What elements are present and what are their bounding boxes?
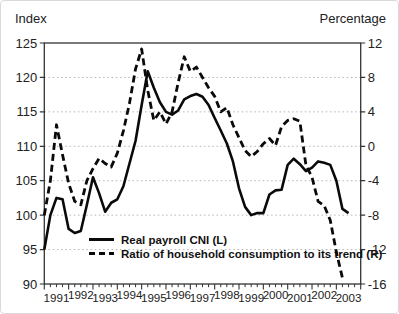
right-axis-title: Percentage	[320, 11, 387, 26]
series-line-real-payroll	[44, 71, 348, 249]
right-axis-tick-label: -16	[368, 277, 387, 292]
x-axis-year-label: 1995	[141, 291, 167, 304]
right-axis-tick-label: 12	[368, 36, 382, 51]
legend-label: Ratio of household consumption to its tr…	[121, 248, 382, 260]
chart-container: Index Percentage 12512011511010510095901…	[0, 0, 399, 314]
x-axis-year-label: 1996	[165, 288, 191, 301]
solid-line-sample	[89, 238, 114, 241]
left-axis-tick-label: 115	[17, 104, 38, 119]
x-axis-year-label: 1994	[117, 288, 143, 301]
x-axis-year-label: 2001	[287, 291, 313, 304]
legend-label: Real payroll CNI (L)	[121, 234, 227, 246]
x-axis-year-label: 1991	[44, 291, 70, 304]
x-axis-year-label: 2002	[311, 288, 337, 301]
dashed-line-sample	[89, 252, 114, 255]
x-axis-year-label: 1998	[214, 288, 240, 301]
x-axis-year-label: 1993	[92, 291, 118, 304]
left-axis-tick-label: 120	[16, 70, 38, 85]
left-axis-tick-label: 125	[16, 36, 38, 51]
x-axis-year-label: 1997	[190, 291, 216, 304]
x-axis-year-label: 2003	[336, 291, 362, 304]
x-axis-year-label: 1999	[238, 291, 264, 304]
line-chart-plot: 125120115110105100959012840-4-8-12-16199…	[1, 1, 399, 314]
x-axis-year-label: 2000	[263, 288, 289, 301]
left-axis-tick-label: 105	[16, 173, 38, 188]
left-axis-tick-label: 110	[17, 139, 38, 154]
x-axis-year-label: 1992	[68, 288, 94, 301]
left-axis-tick-label: 100	[16, 208, 38, 223]
left-axis-title: Index	[15, 11, 47, 26]
left-axis-tick-label: 90	[23, 277, 37, 292]
right-axis-tick-label: 4	[368, 104, 375, 119]
right-axis-tick-label: -8	[368, 208, 380, 223]
right-axis-tick-label: 0	[368, 139, 375, 154]
chart-legend: Real payroll CNI (L) Ratio of household …	[89, 233, 382, 261]
legend-item-consumption-ratio: Ratio of household consumption to its tr…	[89, 247, 382, 260]
left-axis-tick-label: 95	[23, 242, 37, 257]
right-axis-tick-label: -4	[368, 173, 380, 188]
right-axis-tick-label: 8	[368, 70, 375, 85]
legend-item-real-payroll: Real payroll CNI (L)	[89, 233, 382, 246]
